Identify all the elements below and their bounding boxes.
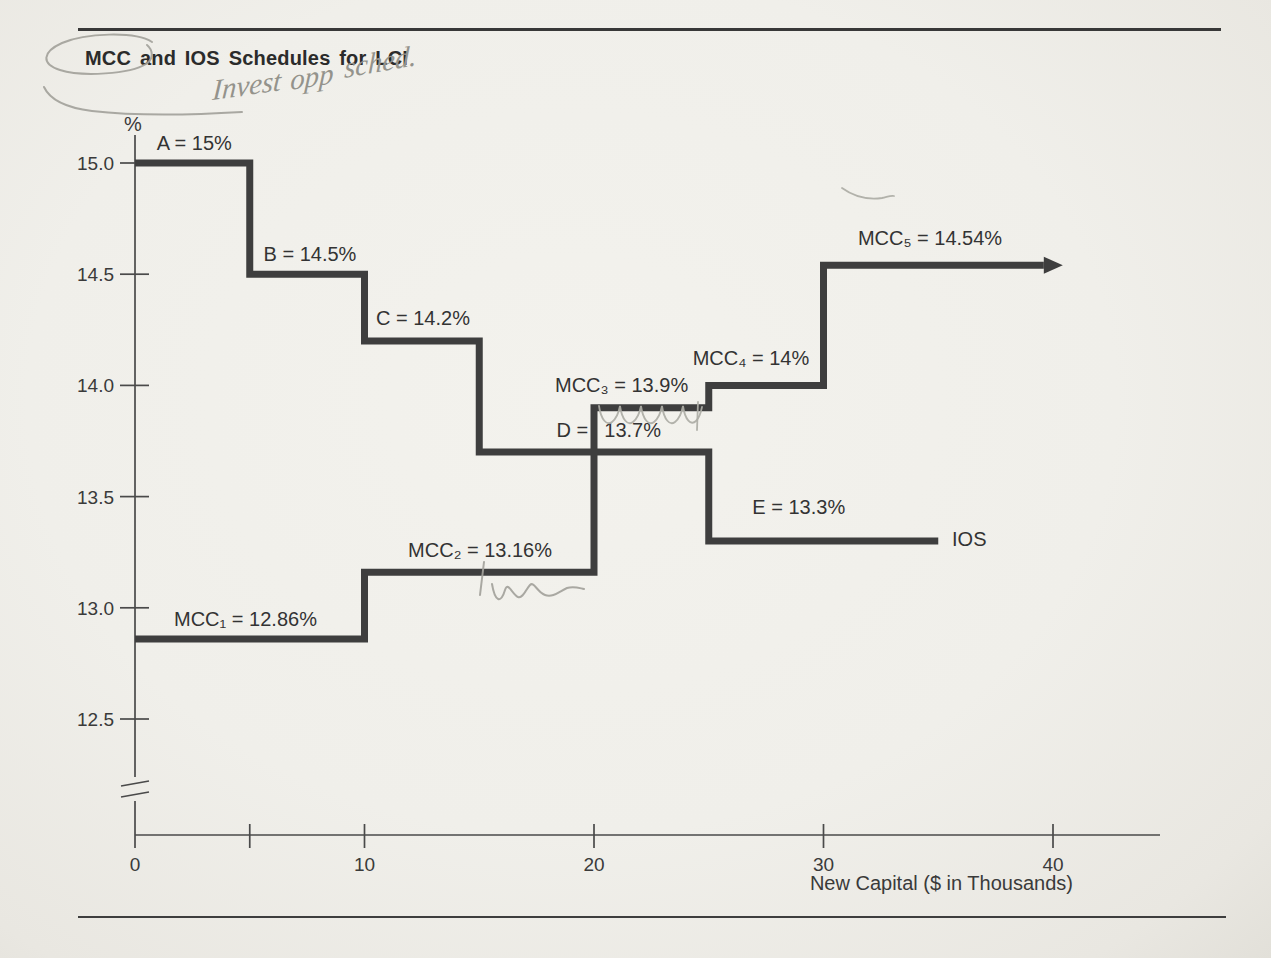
chart-annotation: MCC₂ = 13.16% bbox=[408, 539, 552, 561]
y-tick-label: 13.5 bbox=[77, 487, 114, 508]
chart-annotation: IOS bbox=[952, 528, 986, 550]
y-tick-label: 12.5 bbox=[77, 709, 114, 730]
y-axis-break-mark bbox=[121, 792, 149, 797]
chart-annotation: MCC₅ = 14.54% bbox=[858, 227, 1002, 249]
y-tick-label: 13.0 bbox=[77, 598, 114, 619]
chart-annotation: B = 14.5% bbox=[264, 243, 357, 265]
x-tick-label: 20 bbox=[583, 854, 604, 875]
x-axis-title: New Capital ($ in Thousands) bbox=[810, 872, 1073, 894]
pen-tick-on-mcc2-icon bbox=[480, 562, 484, 595]
chart-annotation: A = 15% bbox=[157, 132, 232, 154]
y-tick-label: 14.5 bbox=[77, 264, 114, 285]
x-tick-label: 0 bbox=[130, 854, 141, 875]
pen-wave-under-mcc2-icon bbox=[492, 584, 584, 599]
handwriting-word-opp: opp bbox=[290, 57, 335, 96]
handwriting-word-invest: Invest bbox=[211, 64, 284, 106]
y-axis-break-mark bbox=[121, 781, 149, 786]
chart-annotation: E = 13.3% bbox=[752, 496, 845, 518]
chart-canvas: 01020304015.014.514.013.513.012.5%New Ca… bbox=[0, 0, 1271, 958]
pen-curl-icon bbox=[842, 188, 894, 199]
pen-scallop-tail-icon bbox=[697, 402, 698, 430]
scanned-page: MCC and IOS Schedules for LCI 0102030401… bbox=[0, 0, 1271, 958]
y-axis-unit-label: % bbox=[124, 113, 142, 135]
y-tick-label: 14.0 bbox=[77, 375, 114, 396]
pen-circle-around-title-icon bbox=[46, 35, 152, 74]
y-tick-label: 15.0 bbox=[77, 153, 114, 174]
series-ios-line bbox=[135, 163, 938, 541]
chart-annotation: MCC₁ = 12.86% bbox=[174, 608, 317, 630]
x-tick-label: 10 bbox=[354, 854, 375, 875]
chart-annotation: C = 14.2% bbox=[376, 307, 470, 329]
chart-annotation: MCC₃ = 13.9% bbox=[555, 374, 688, 396]
chart-annotation: MCC₄ = 14% bbox=[693, 347, 810, 369]
series-mcc-arrow-head-icon bbox=[1044, 257, 1063, 274]
handwriting-word-sched: sched. bbox=[344, 39, 417, 84]
chart-annotation: D = bbox=[557, 419, 589, 441]
